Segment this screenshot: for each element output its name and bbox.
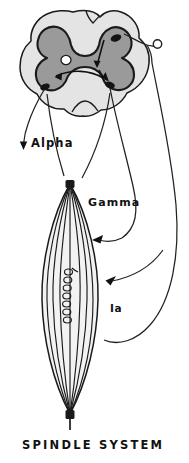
central-canal bbox=[61, 55, 71, 64]
figure-canvas bbox=[0, 0, 189, 463]
label-ia: Ia bbox=[110, 303, 122, 314]
gamma-terminal-branch bbox=[99, 238, 122, 241]
label-alpha: Alpha bbox=[31, 138, 74, 150]
gamma-motor-pathway bbox=[110, 88, 136, 238]
spinal-cord-cross-section bbox=[20, 11, 149, 117]
muscle-spindle bbox=[42, 180, 98, 430]
gamma-arrowhead bbox=[92, 235, 103, 244]
dorsal-root-ganglion bbox=[153, 40, 161, 48]
ia-afferent-branch bbox=[112, 250, 163, 281]
spindle-bottom-pole bbox=[66, 410, 75, 419]
label-gamma: Gamma bbox=[88, 197, 140, 208]
spindle-top-pole bbox=[66, 180, 75, 188]
figure-caption: SPINDLE SYSTEM bbox=[22, 440, 164, 452]
spindle-system-figure: Alpha Gamma Ia SPINDLE SYSTEM bbox=[0, 0, 189, 463]
alpha-arrowhead bbox=[20, 142, 27, 151]
